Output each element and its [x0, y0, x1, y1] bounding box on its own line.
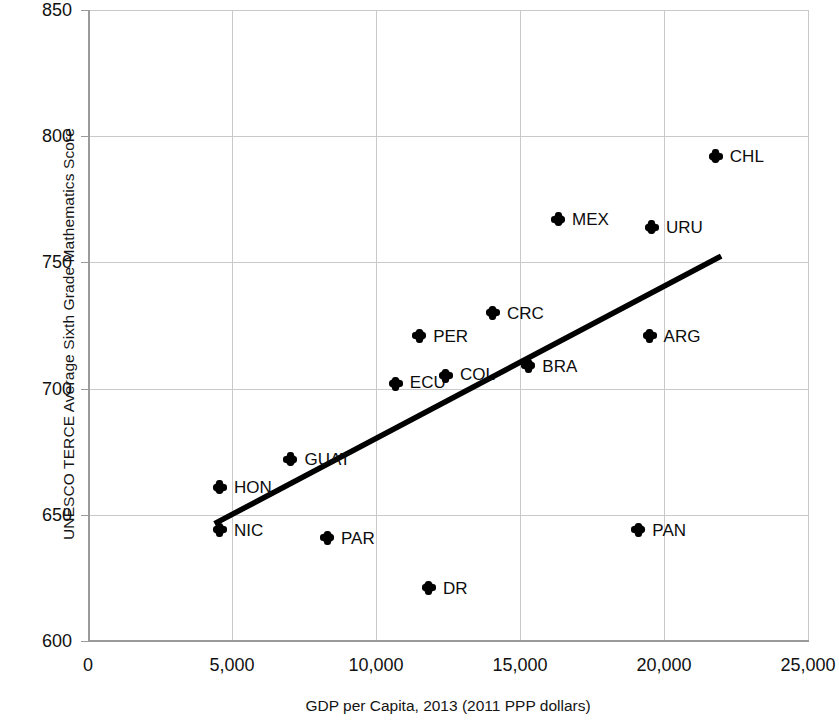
y-tick-label: 600: [8, 632, 72, 650]
plot-area: NICHONGUATPARECUPERDRCOLCRCBRAMEXPANARGU…: [88, 10, 808, 641]
x-tick-label: 20,000: [604, 656, 724, 674]
data-point-label-chl: CHL: [730, 148, 764, 165]
y-tick-label: 650: [8, 506, 72, 524]
data-point-label-mex: MEX: [572, 211, 609, 228]
data-point-label-nic: NIC: [234, 522, 263, 539]
data-point-par[interactable]: [322, 532, 333, 543]
y-axis-title: UNESCO TERCE Average Sixth Grade Mathema…: [60, 24, 78, 644]
data-point-mex[interactable]: [553, 214, 564, 225]
x-tick-label: 5,000: [172, 656, 292, 674]
x-tick-label: 10,000: [316, 656, 436, 674]
trendline: [88, 10, 808, 641]
x-tick-label: 25,000: [748, 656, 839, 674]
y-tick-label: 800: [8, 127, 72, 145]
data-point-label-bra: BRA: [542, 358, 577, 375]
data-point-per[interactable]: [414, 330, 425, 341]
data-point-uru[interactable]: [646, 222, 657, 233]
x-tick-label: 0: [28, 656, 148, 674]
scatter-chart: UNESCO TERCE Average Sixth Grade Mathema…: [0, 0, 839, 727]
x-axis-title: GDP per Capita, 2013 (2011 PPP dollars): [88, 697, 808, 715]
x-tick-label: 15,000: [460, 656, 580, 674]
data-point-label-uru: URU: [666, 219, 703, 236]
y-tick-label: 850: [8, 1, 72, 19]
data-point-label-dr: DR: [443, 580, 468, 597]
data-point-label-guat: GUAT: [304, 451, 350, 468]
data-point-label-par: PAR: [341, 530, 375, 547]
tick-mark-y: [81, 262, 88, 263]
tick-mark-y: [81, 136, 88, 137]
data-point-label-per: PER: [433, 328, 468, 345]
data-point-label-col: COL: [460, 366, 495, 383]
data-point-label-arg: ARG: [664, 328, 701, 345]
tick-mark-y: [81, 10, 88, 11]
data-point-hon[interactable]: [214, 482, 225, 493]
tick-mark-y: [81, 515, 88, 516]
y-tick-label: 750: [8, 253, 72, 271]
y-tick-label: 700: [8, 380, 72, 398]
tick-mark-y: [81, 641, 88, 642]
data-point-guat[interactable]: [285, 454, 296, 465]
tick-mark-y: [81, 389, 88, 390]
gridline-vertical: [808, 10, 809, 641]
data-point-label-crc: CRC: [507, 305, 544, 322]
data-point-label-pan: PAN: [652, 522, 686, 539]
data-point-label-hon: HON: [234, 479, 272, 496]
